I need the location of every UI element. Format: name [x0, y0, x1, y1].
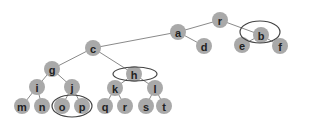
node-label: g [49, 64, 56, 76]
node-d: d [196, 38, 212, 54]
tree-diagram: rabefdcghijklmnopqrst [0, 0, 309, 128]
node-m: m [14, 98, 30, 114]
node-l: l [147, 80, 163, 96]
node-label: j [69, 82, 73, 94]
node-label: s [143, 101, 149, 113]
node-label: d [201, 41, 208, 53]
node-n: n [34, 98, 50, 114]
node-label: r [123, 101, 128, 113]
node-e: e [234, 37, 250, 53]
node-label: n [39, 101, 46, 113]
node-label: t [162, 101, 166, 113]
node-label: o [59, 101, 66, 113]
node-label: c [90, 43, 96, 55]
node-label: m [17, 101, 27, 113]
node-b: b [253, 27, 269, 43]
node-a: a [170, 24, 186, 40]
node-label: h [131, 69, 138, 81]
node-label: q [102, 101, 109, 113]
node-label: b [258, 30, 265, 42]
node-k: k [107, 80, 123, 96]
node-r2: r [117, 98, 133, 114]
node-label: l [153, 83, 156, 95]
node-label: e [239, 40, 245, 52]
node-t: t [156, 98, 172, 114]
node-label: k [112, 83, 119, 95]
node-label: p [79, 101, 86, 113]
node-o: o [54, 98, 70, 114]
node-label: a [175, 27, 182, 39]
node-q: q [97, 98, 113, 114]
node-label: r [218, 15, 223, 27]
node-h: h [126, 66, 142, 82]
node-label: i [35, 82, 38, 94]
node-j: j [64, 79, 80, 95]
node-r: r [212, 12, 228, 28]
node-label: f [278, 41, 282, 53]
node-p: p [74, 98, 90, 114]
node-i: i [29, 79, 45, 95]
node-f: f [272, 38, 288, 54]
tree-nodes: rabefdcghijklmnopqrst [14, 12, 288, 114]
edge-a-c [93, 32, 178, 48]
node-c: c [85, 40, 101, 56]
node-s: s [138, 98, 154, 114]
node-g: g [44, 61, 60, 77]
